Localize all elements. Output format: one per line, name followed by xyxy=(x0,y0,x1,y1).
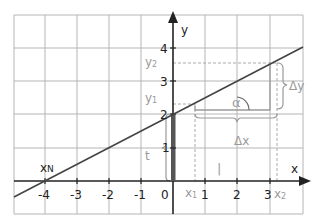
svg-text:-4: -4 xyxy=(38,188,50,202)
y2-label: y2 xyxy=(145,55,157,69)
x-tick-labels: -4 -3 -2 -1 0 1 2 3 xyxy=(38,188,272,202)
delta-y-brace xyxy=(277,63,287,109)
slope-triangle: α xyxy=(195,64,270,110)
delta-x-brace xyxy=(195,114,277,122)
svg-text:3: 3 xyxy=(264,188,272,202)
unit-segment-label: | xyxy=(217,161,221,176)
svg-text:2: 2 xyxy=(233,188,241,202)
y-tick-labels: 1 2 3 4 xyxy=(160,42,170,155)
svg-text:1: 1 xyxy=(201,188,209,202)
y-axis-label: y xyxy=(181,23,188,37)
y1-label: y1 xyxy=(145,91,157,105)
intercept-label: t xyxy=(145,149,150,163)
function-line xyxy=(14,47,303,197)
svg-text:-3: -3 xyxy=(70,188,82,202)
x1-label: x1 xyxy=(185,186,197,200)
x2-label: x2 xyxy=(274,187,286,201)
y-axis-arrow xyxy=(168,11,178,23)
svg-text:1: 1 xyxy=(162,141,170,155)
svg-text:-2: -2 xyxy=(102,188,114,202)
x-root-label: xN xyxy=(40,161,54,175)
delta-x-label: Δx xyxy=(234,134,249,148)
svg-text:4: 4 xyxy=(160,42,168,56)
svg-text:3: 3 xyxy=(160,75,168,89)
x-axis-arrow xyxy=(299,176,311,186)
delta-y-label: Δy xyxy=(289,79,304,93)
angle-label: α xyxy=(232,95,241,110)
x-axis-label: x xyxy=(291,162,298,176)
svg-text:2: 2 xyxy=(160,108,168,122)
svg-text:0: 0 xyxy=(161,188,169,202)
linear-function-diagram: α -4 -3 -2 -1 0 1 2 3 1 2 3 xyxy=(0,0,322,224)
grid xyxy=(14,15,303,214)
svg-text:-1: -1 xyxy=(134,188,146,202)
